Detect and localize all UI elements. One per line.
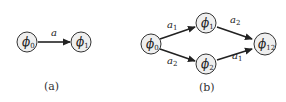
- caption-a: (a): [44, 80, 59, 93]
- edge-b-phi1-phi12: [217, 27, 252, 39]
- edge-label-a: a: [51, 27, 57, 38]
- edge-label-b-3: a2: [230, 14, 240, 27]
- edge-label-b-1: a1: [167, 19, 177, 32]
- figure-a: a ϕ0 ϕ1 (a): [17, 27, 91, 93]
- edge-b-phi0-phi2: [160, 49, 195, 61]
- node-b-phi1: ϕ1: [196, 13, 216, 33]
- edge-label-b-2: a2: [167, 55, 177, 68]
- node-b-phi0: ϕ0: [141, 34, 161, 54]
- node-b-phi12: ϕ12: [254, 33, 276, 55]
- edge-b-phi0-phi1: [160, 27, 195, 39]
- figure-b: a1 a2 a2 a1 ϕ0 ϕ1 ϕ2 ϕ12 (b): [141, 13, 276, 94]
- caption-b: (b): [199, 81, 215, 94]
- node-a-phi0: ϕ0: [17, 32, 37, 52]
- node-b-phi2: ϕ2: [196, 54, 216, 74]
- node-a-phi1: ϕ1: [71, 32, 91, 52]
- diagram-canvas: a ϕ0 ϕ1 (a) a1 a2 a2 a1 ϕ0 ϕ1 ϕ2: [0, 0, 286, 102]
